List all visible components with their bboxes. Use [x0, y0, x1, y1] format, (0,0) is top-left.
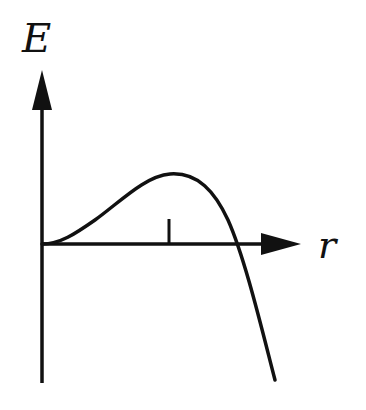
e-axis-label: E [21, 15, 51, 61]
energy-curve [42, 174, 275, 380]
r-axis-arrowhead-icon [261, 233, 301, 255]
e-axis-arrowhead-icon [32, 70, 52, 110]
r-axis-label: r [318, 223, 339, 267]
energy-diagram: E r [0, 0, 366, 410]
